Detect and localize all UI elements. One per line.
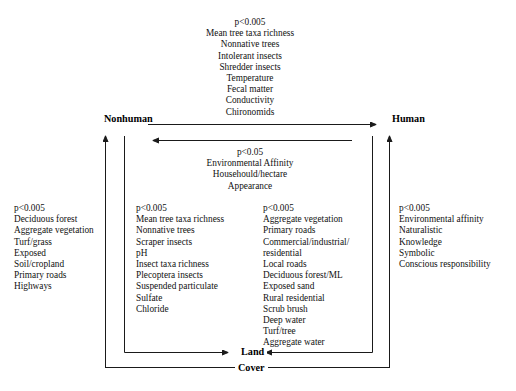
block-far-left: p<0.005 Deciduous forest Aggregate veget… [14, 203, 114, 293]
node-label-cover: Cover [235, 362, 268, 373]
block-top-center: p<0.005 Mean tree taxa richness Nonnativ… [160, 17, 340, 118]
conceptual-path-diagram: Nonhuman Human Land Cover p<0.005 Mean t… [0, 0, 516, 391]
node-label-human: Human [392, 113, 425, 124]
block-far-right: p<0.005 Environmental affinity Naturalis… [399, 203, 513, 270]
block-middle-center: p<0.05 Environmental Affinity Househould… [168, 147, 332, 192]
block-inner-right: p<0.005 Aggregate vegetation Primary roa… [263, 203, 371, 349]
node-label-nonhuman: Nonhuman [104, 113, 153, 124]
block-inner-left: p<0.005 Mean tree taxa richness Nonnativ… [136, 203, 252, 315]
